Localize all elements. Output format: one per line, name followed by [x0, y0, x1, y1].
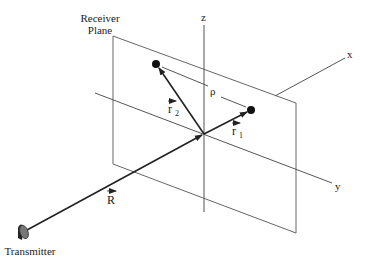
svg-text:R: R: [107, 193, 115, 207]
R-label: R: [107, 191, 116, 207]
point-r2: [152, 60, 160, 68]
receiver-plane-label-line1: Receiver: [80, 12, 119, 24]
x-axis: [275, 58, 345, 96]
r1-label: r 1: [232, 123, 243, 140]
vector-R: [27, 135, 202, 230]
rho-label: ρ: [210, 85, 216, 97]
receiver-plane-diagram: z x y Receiver Plane ρ r 2 r 1 R Transmi…: [0, 0, 365, 266]
transmitter-label: Transmitter: [5, 245, 56, 257]
receiver-plane-label-line2: Plane: [88, 24, 113, 36]
vector-r2: [159, 68, 204, 134]
x-axis-label: x: [347, 48, 353, 60]
r2-label: r 2: [168, 101, 179, 118]
svg-text:r: r: [232, 124, 236, 138]
svg-text:2: 2: [175, 109, 179, 118]
y-axis-label: y: [335, 180, 341, 192]
transmitter-dish-icon: [18, 224, 30, 240]
svg-text:r: r: [168, 102, 172, 116]
svg-text:1: 1: [239, 131, 243, 140]
z-axis-label: z: [201, 11, 206, 23]
point-r1: [247, 106, 255, 114]
